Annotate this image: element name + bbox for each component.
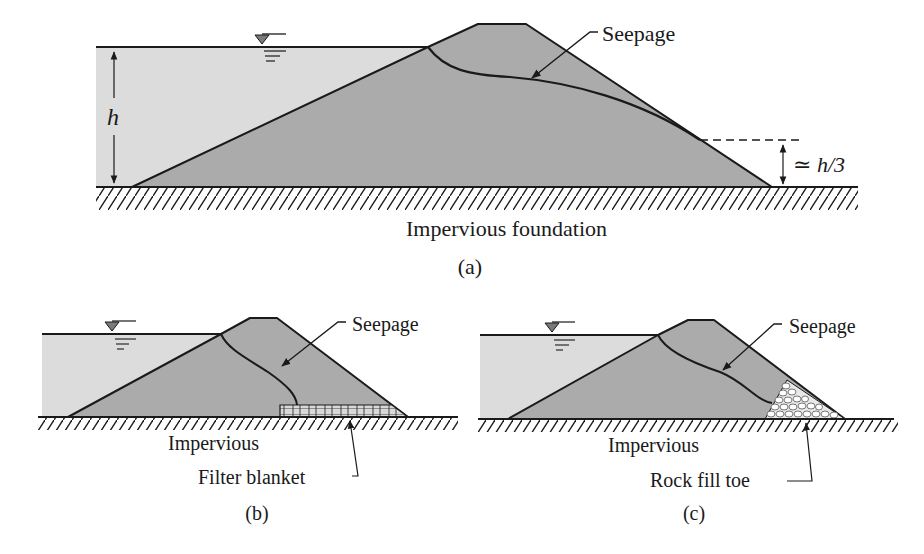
seepage-label: Seepage	[602, 21, 675, 46]
filter-blanket	[280, 405, 408, 417]
seepage-label: Seepage	[789, 315, 856, 338]
panel-caption-c: (c)	[683, 502, 705, 525]
panel-a: Seepage h ≃ h/3 Impervious foundation (a…	[96, 21, 858, 279]
exit-height-label: ≃ h/3	[793, 152, 845, 177]
height-label: h	[107, 104, 119, 130]
foundation-label: Impervious foundation	[406, 216, 607, 241]
panel-c: Seepage Impervious Rock fill toe (c)	[478, 315, 898, 525]
rock-fill-toe-label: Rock fill toe	[650, 469, 750, 491]
dam-seepage-diagram: Seepage h ≃ h/3 Impervious foundation (a…	[0, 0, 924, 554]
impervious-foundation-hatch	[38, 418, 458, 430]
panel-caption-a: (a)	[458, 254, 482, 279]
impervious-foundation-hatch	[96, 188, 858, 210]
panel-b: Seepage Impervious Filter blanket (b)	[38, 313, 458, 525]
foundation-label: Impervious	[608, 434, 699, 457]
seepage-label: Seepage	[352, 313, 419, 336]
filter-blanket-label: Filter blanket	[198, 466, 306, 488]
impervious-foundation-hatch	[478, 420, 898, 432]
panel-caption-b: (b)	[245, 502, 268, 525]
foundation-label: Impervious	[168, 432, 259, 455]
